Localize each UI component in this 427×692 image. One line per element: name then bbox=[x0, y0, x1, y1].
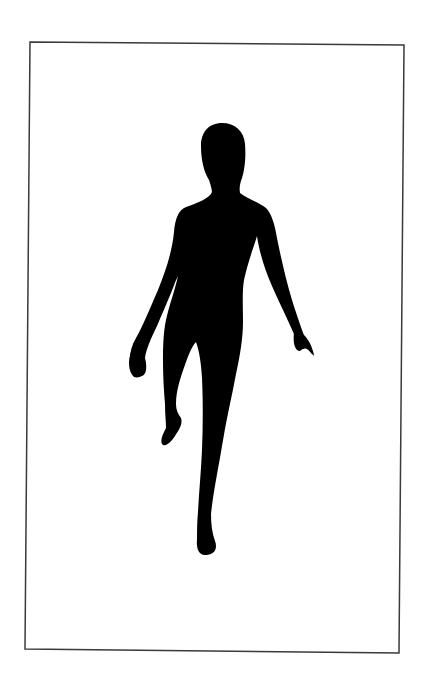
image-canvas bbox=[0, 0, 427, 692]
